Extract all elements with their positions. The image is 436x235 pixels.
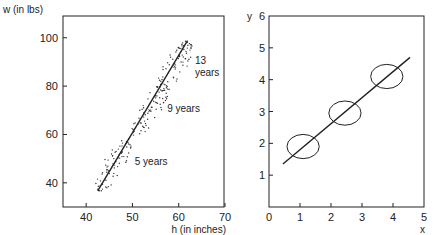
data-point	[99, 190, 100, 191]
data-point	[148, 127, 149, 128]
data-point	[167, 88, 168, 89]
data-point	[161, 109, 162, 110]
data-point	[180, 48, 181, 49]
data-point	[182, 54, 183, 55]
data-point	[159, 80, 160, 81]
data-point	[187, 47, 188, 48]
data-point	[112, 155, 113, 156]
data-point	[179, 71, 180, 72]
data-point	[145, 123, 146, 124]
data-point	[161, 79, 162, 80]
data-point	[168, 89, 169, 90]
x-tick-label: 4	[390, 211, 396, 223]
data-point	[160, 107, 161, 108]
data-point	[112, 176, 113, 177]
data-point	[189, 49, 190, 50]
y-axis-label: w (in lbs)	[2, 4, 43, 15]
x-tick-label: 1	[297, 211, 303, 223]
y-tick-label: 60	[46, 128, 58, 140]
data-point	[113, 158, 114, 159]
xy-regression-chart: 012345123456yx	[247, 10, 427, 235]
data-point	[175, 51, 176, 52]
data-point	[139, 133, 140, 134]
data-point	[108, 186, 109, 187]
data-point	[165, 97, 166, 98]
y-tick-label: 40	[46, 177, 58, 189]
data-point	[106, 166, 107, 167]
data-point	[143, 116, 144, 117]
data-point	[144, 131, 145, 132]
data-point	[105, 186, 106, 187]
x-axis-label: h (in inches)	[172, 224, 226, 235]
data-point	[163, 90, 164, 91]
data-point	[162, 98, 163, 99]
data-point	[149, 92, 150, 93]
data-point	[160, 104, 161, 105]
data-point	[186, 65, 187, 66]
data-point	[123, 156, 124, 157]
data-point	[127, 156, 128, 157]
data-point	[106, 169, 107, 170]
data-point	[156, 95, 157, 96]
data-point	[167, 86, 168, 87]
data-point	[105, 165, 106, 166]
data-point	[141, 109, 142, 110]
x-axis-label: x	[420, 224, 425, 235]
data-point	[141, 122, 142, 123]
y-tick-label: 4	[259, 74, 265, 86]
data-point	[163, 102, 164, 103]
x-tick-label: 40	[80, 211, 92, 223]
data-point	[156, 102, 157, 103]
data-point	[130, 145, 131, 146]
data-point	[158, 91, 159, 92]
cluster-annotation: 13	[195, 55, 207, 66]
data-point	[147, 98, 148, 99]
data-point	[117, 175, 118, 176]
data-point	[131, 128, 132, 129]
data-point	[144, 120, 145, 121]
data-point	[172, 59, 173, 60]
data-point	[129, 144, 130, 145]
data-point	[102, 172, 103, 173]
data-point	[162, 66, 163, 67]
y-tick-label: 1	[259, 169, 265, 181]
y-tick-label: 80	[46, 80, 58, 92]
data-point	[121, 145, 122, 146]
data-point	[191, 45, 192, 46]
data-point	[157, 103, 158, 104]
data-point	[143, 105, 144, 106]
data-point	[113, 173, 114, 174]
data-point	[147, 119, 148, 120]
data-point	[121, 140, 122, 141]
y-tick-label: 6	[259, 10, 265, 22]
data-point	[176, 50, 177, 51]
data-point	[106, 172, 107, 173]
data-point	[100, 180, 101, 181]
data-point	[185, 41, 186, 42]
data-point	[128, 143, 129, 144]
y-tick-label: 100	[40, 32, 58, 44]
data-point	[190, 57, 191, 58]
data-point	[162, 76, 163, 77]
data-point	[167, 81, 168, 82]
x-tick-label: 0	[266, 211, 272, 223]
data-point	[140, 130, 141, 131]
data-point	[166, 98, 167, 99]
y-tick-label: 3	[259, 106, 265, 118]
data-point	[157, 86, 158, 87]
data-point	[169, 54, 170, 55]
data-point	[101, 173, 102, 174]
x-tick-label: 50	[126, 211, 138, 223]
data-point	[162, 69, 163, 70]
data-point	[181, 44, 182, 45]
data-point	[159, 97, 160, 98]
data-point	[183, 49, 184, 50]
data-point	[187, 45, 188, 46]
data-point	[190, 44, 191, 45]
regression-line	[283, 57, 410, 164]
data-point	[158, 77, 159, 78]
data-point	[188, 59, 189, 60]
x-tick-label: 70	[219, 211, 231, 223]
data-point	[122, 142, 123, 143]
data-point	[104, 159, 105, 160]
